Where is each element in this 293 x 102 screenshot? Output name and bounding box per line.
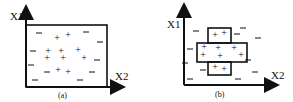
plus-point: +	[44, 52, 50, 63]
x-axis-label: X2	[271, 69, 284, 81]
plus-point: +	[65, 29, 71, 40]
panel-caption: (a)	[58, 91, 67, 100]
plus-point: +	[212, 61, 218, 72]
plus-point: +	[54, 32, 60, 43]
plus-point: +	[217, 50, 223, 61]
data-points: ++++++++++	[28, 29, 103, 80]
plus-point: +	[200, 49, 206, 60]
plus-point: +	[60, 52, 66, 63]
data-points: ++++++++++	[182, 27, 261, 79]
panel-b: X1 X2 (b) ++++++++++	[167, 10, 284, 99]
plus-point: +	[212, 29, 218, 40]
y-axis-label: X1	[10, 10, 23, 22]
plus-point: +	[221, 27, 227, 38]
panel-caption: (b)	[215, 90, 225, 99]
plus-point: +	[65, 66, 71, 77]
plus-point: +	[231, 42, 237, 53]
panel-a: X1 X2 (a) ++++++++++	[10, 10, 128, 100]
plus-point: +	[81, 52, 87, 63]
plus-point: +	[238, 49, 244, 60]
x-axis-label: X2	[115, 70, 128, 82]
plus-point: +	[55, 64, 61, 75]
plus-point: +	[221, 63, 227, 74]
y-axis-label: X1	[167, 18, 180, 30]
diagram-canvas: X1 X2 (a) ++++++++++ X1 X2 (b) +++++++++…	[0, 0, 293, 102]
